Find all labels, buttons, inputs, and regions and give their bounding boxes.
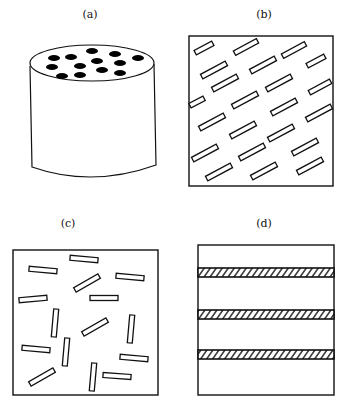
hatched-layer-2 xyxy=(198,310,334,319)
composite-diagram xyxy=(0,0,354,408)
hatched-layer-1 xyxy=(198,268,334,277)
hatched-layer-3 xyxy=(198,350,334,359)
panel-d-laminate xyxy=(198,245,334,395)
